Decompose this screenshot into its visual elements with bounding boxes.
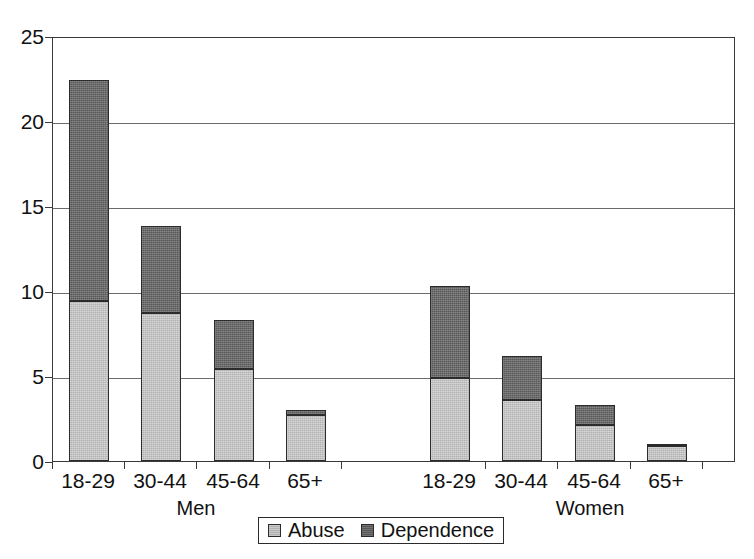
- legend-item-abuse: Abuse: [268, 520, 345, 540]
- y-axis-tick-label: 5: [0, 366, 44, 387]
- x-axis-tick-mark: [196, 462, 197, 469]
- x-axis-tick-mark: [52, 462, 53, 469]
- legend-swatch-abuse-icon: [268, 524, 281, 537]
- y-axis-tick-mark: [45, 377, 52, 378]
- y-axis-tick-label: 10: [0, 281, 44, 302]
- x-axis-tick-mark: [485, 462, 486, 469]
- legend-swatch-dependence-icon: [361, 524, 374, 537]
- legend: Abuse Dependence: [258, 517, 504, 544]
- x-axis-tick-mark: [341, 462, 342, 469]
- legend-label-dependence: Dependence: [381, 520, 494, 540]
- x-axis-group-label-men: Men: [136, 497, 256, 519]
- y-axis-tick-mark: [45, 292, 52, 293]
- y-axis-tick-label: 20: [0, 111, 44, 132]
- x-axis-tick-mark: [269, 462, 270, 469]
- legend-item-dependence: Dependence: [361, 520, 494, 540]
- y-axis-tick-mark: [45, 37, 52, 38]
- y-axis-tick-mark: [45, 462, 52, 463]
- x-axis-group-label-women: Women: [530, 497, 650, 519]
- legend-label-abuse: Abuse: [288, 520, 345, 540]
- y-axis-tick-label: 15: [0, 196, 44, 217]
- stacked-bar-chart: 0510152025 18-2930-4445-6465+18-2930-444…: [0, 0, 754, 559]
- y-axis-tick-label: 25: [0, 26, 44, 47]
- x-axis-tick-mark: [630, 462, 631, 469]
- y-axis-tick-label: 0: [0, 451, 44, 472]
- y-axis-tick-mark: [45, 207, 52, 208]
- x-axis-tick-mark: [124, 462, 125, 469]
- x-axis-tick-mark: [557, 462, 558, 469]
- x-axis-tick-label: 65+: [260, 470, 350, 492]
- x-axis-tick-mark: [702, 462, 703, 469]
- y-axis-tick-mark: [45, 122, 52, 123]
- x-axis-tick-label: 65+: [621, 470, 711, 492]
